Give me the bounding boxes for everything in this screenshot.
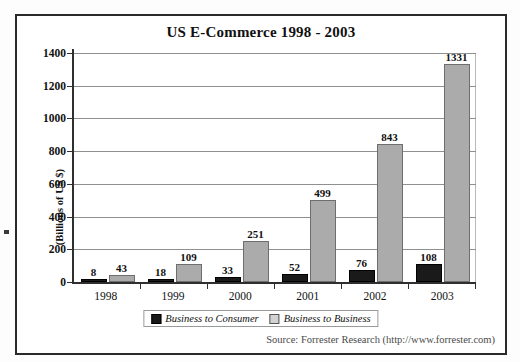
legend-item-b2c[interactable]: Business to Consumer [151,313,258,324]
bar-b2b-2001[interactable]: 499 [310,200,336,282]
y-tick-label: 400 [49,211,66,223]
bar-group-1999: 18109 [141,53,208,282]
x-tick-mark [408,283,409,289]
source-note: Source: Forrester Research (http://www.f… [266,334,495,345]
bar-value-label: 43 [116,262,127,274]
y-tick-label: 1400 [43,47,66,59]
bar-b2b-2000[interactable]: 251 [243,241,269,282]
chart-figure: US E-Commerce 1998 - 2003 (Billions of U… [0,0,520,362]
scan-artifact-speck [4,230,9,234]
legend-swatch-icon-b2b [270,314,280,324]
chart-title: US E-Commerce 1998 - 2003 [17,24,505,41]
bar-value-label: 843 [381,131,398,143]
x-axis-tick-labels: 199819992000200120022003 [72,290,476,302]
bar-b2b-2003[interactable]: 1331 [444,64,470,282]
x-tick-mark [274,283,275,289]
bar-value-label: 109 [180,251,197,263]
bar-b2c-1999[interactable]: 18 [148,279,174,282]
bar-b2c-2001[interactable]: 52 [282,274,308,283]
x-tick-mark [341,283,342,289]
y-tick-label: 1000 [43,112,66,124]
bar-value-label: 76 [356,257,367,269]
plot-area-wrapper: (Billions of US $) 140012001000800600400… [72,53,476,284]
bar-groups: 843181093325152499768431081331 [74,53,476,282]
x-tick-label-2003: 2003 [409,290,476,302]
bar-value-label: 52 [289,261,300,273]
x-tick-label-2001: 2001 [274,290,341,302]
bar-b2b-1999[interactable]: 109 [176,264,202,282]
bar-value-label: 33 [222,264,233,276]
x-tick-mark [207,283,208,289]
y-tick-label: 200 [49,243,66,255]
bar-group-2003: 1081331 [409,53,476,282]
bar-value-label: 251 [247,228,264,240]
bar-b2b-2002[interactable]: 843 [377,144,403,282]
chart-legend: Business to Consumer Business to Busines… [143,310,378,327]
bar-group-2002: 76843 [342,53,409,282]
x-tick-label-1998: 1998 [72,290,139,302]
bar-b2c-1998[interactable]: 8 [81,279,107,282]
bar-group-2000: 33251 [208,53,275,282]
bar-value-label: 8 [91,266,97,278]
x-tick-label-2000: 2000 [207,290,274,302]
legend-label-b2c: Business to Consumer [165,313,258,324]
x-tick-mark [475,283,476,289]
legend-item-b2b[interactable]: Business to Business [270,313,371,324]
bar-group-2001: 52499 [275,53,342,282]
bar-b2c-2000[interactable]: 33 [215,277,241,282]
bar-value-label: 18 [155,266,166,278]
bar-b2c-2003[interactable]: 108 [416,264,442,282]
bar-b2b-1998[interactable]: 43 [109,275,135,282]
y-tick-label: 1200 [43,80,66,92]
bar-value-label: 1331 [446,51,468,63]
y-tick-label: 800 [49,145,66,157]
x-tick-label-1999: 1999 [139,290,206,302]
bar-b2c-2002[interactable]: 76 [349,270,375,282]
chart-frame: US E-Commerce 1998 - 2003 (Billions of U… [15,14,507,355]
x-tick-mark [140,283,141,289]
bar-group-1998: 843 [74,53,141,282]
legend-swatch-icon-b2c [151,314,161,324]
y-tick-label: 600 [49,178,66,190]
legend-label-b2b: Business to Business [284,313,371,324]
y-tick-label: 0 [60,276,66,288]
bar-value-label: 108 [420,251,437,263]
bar-value-label: 499 [314,187,331,199]
x-tick-label-2002: 2002 [341,290,408,302]
